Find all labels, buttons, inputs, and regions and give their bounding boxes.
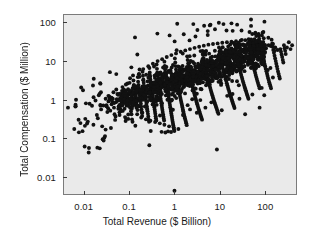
y-tick-label: 0.01 [37, 172, 56, 183]
x-tick-mark [220, 191, 221, 195]
y-tick-mark [63, 61, 67, 62]
x-tick-mark [129, 191, 130, 195]
y-tick-mark [63, 138, 67, 139]
x-tick-mark [265, 191, 266, 195]
x-tick-label: 0.1 [122, 201, 136, 212]
scatter-points-canvas [63, 14, 297, 195]
x-axis-title: Total Revenue ($ Billion) [0, 216, 314, 227]
y-tick-mark [63, 100, 67, 101]
x-tick-label: 10 [214, 201, 225, 212]
x-tick-mark [84, 191, 85, 195]
y-tick-label: 100 [40, 16, 56, 27]
scatter-plot-figure: 1001010.10.01 0.010.1110100 Total Revenu… [0, 0, 314, 245]
y-tick-mark [63, 22, 67, 23]
x-tick-label: 1 [172, 201, 177, 212]
x-tick-label: 0.01 [74, 201, 93, 212]
y-axis-title: Total Compensation ($ Million) [19, 25, 30, 195]
y-tick-mark [63, 177, 67, 178]
x-tick-label: 100 [257, 201, 273, 212]
x-tick-mark [174, 191, 175, 195]
y-tick-label: 1 [51, 94, 56, 105]
y-tick-label: 10 [45, 55, 56, 66]
plot-area [63, 14, 297, 195]
y-tick-label: 0.1 [42, 133, 56, 144]
